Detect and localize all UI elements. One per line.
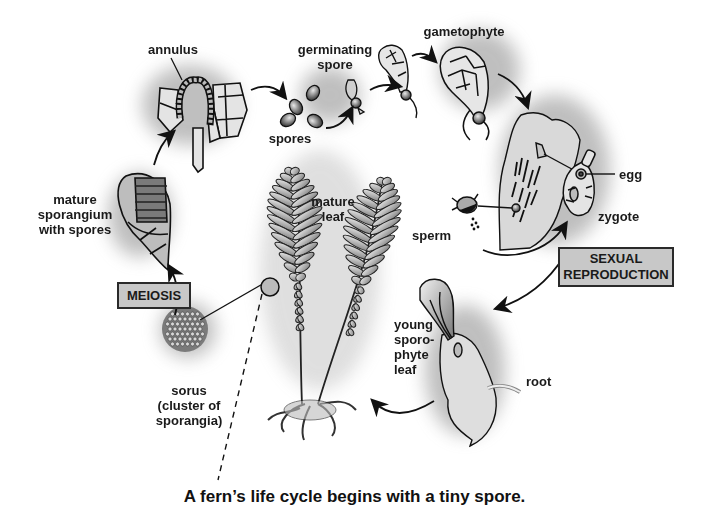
sporangium-dot	[191, 322, 195, 326]
label-young-line3: phyte	[394, 347, 434, 362]
label-germinating-spore: germinating spore	[295, 42, 375, 72]
sporangium-dot	[188, 337, 192, 341]
sporangium-dot	[186, 332, 190, 336]
sporangium-dot	[171, 312, 175, 316]
label-sorus-line1: sorus	[148, 383, 230, 398]
sporangium-dot	[176, 322, 180, 326]
sporangium-dot	[181, 342, 185, 346]
sporangium-dot	[193, 327, 197, 331]
sporangium-dot	[168, 327, 172, 331]
label-young-line1: young	[394, 317, 434, 332]
sporangium-dot	[196, 322, 200, 326]
sporangium-dot	[191, 312, 195, 316]
sporangium-dot	[181, 332, 185, 336]
label-spores: spores	[265, 131, 315, 146]
sporangium-dot	[176, 342, 180, 346]
label-root: root	[526, 374, 551, 389]
figure-caption: A fern’s life cycle begins with a tiny s…	[0, 487, 709, 507]
sorus	[162, 306, 208, 352]
sporangium-dot	[198, 327, 202, 331]
sporangium-dot	[186, 322, 190, 326]
sexual-reproduction-box: SEXUAL REPRODUCTION	[558, 247, 674, 287]
sexual-reproduction-line2: REPRODUCTION	[563, 267, 668, 283]
arrow-annulus-to-spores	[251, 87, 284, 96]
arrow-young-to-mature-gametophyte	[412, 54, 434, 60]
label-mature-sporangium: mature sporangium with spores	[30, 192, 120, 237]
sporangium-dot	[201, 332, 205, 336]
arrow-sporophyte-to-fern	[374, 401, 434, 413]
label-germinating-line1: germinating	[295, 42, 375, 57]
sporangium-dot	[186, 312, 190, 316]
sporangium-dot	[181, 322, 185, 326]
sporangium-dot	[166, 332, 170, 336]
sorus-magnifier-circle	[261, 278, 279, 296]
label-mature-leaf: mature leaf	[308, 194, 358, 224]
sporangium-dot	[196, 332, 200, 336]
sexual-reproduction-line1: SEXUAL	[590, 251, 643, 267]
sporangium-dot	[171, 332, 175, 336]
sporangium-dot	[201, 322, 205, 326]
sporangium-dot	[191, 342, 195, 346]
sporangium-dot	[168, 337, 172, 341]
label-sperm: sperm	[412, 228, 451, 243]
sporangium-dot	[181, 312, 185, 316]
label-mature-sporangium-line2: sporangium	[30, 207, 120, 222]
arrow-reproduction-to-sporophyte	[498, 255, 565, 308]
sorus-leader-line	[200, 282, 266, 320]
label-mature-sporangium-line1: mature	[30, 192, 120, 207]
sporangium-dot	[173, 337, 177, 341]
sporangium-dot	[188, 317, 192, 321]
label-zygote: zygote	[598, 209, 639, 224]
sporangium-dot	[183, 337, 187, 341]
label-sorus-line2: (cluster of	[148, 398, 230, 413]
sporangium-dot	[193, 337, 197, 341]
sporangium-dot	[186, 342, 190, 346]
sporangium-dot	[178, 317, 182, 321]
sporangium-dot	[188, 327, 192, 331]
mature-gametophyte	[440, 47, 488, 140]
label-young-line2: sporo-	[394, 332, 434, 347]
sporangium-dot	[171, 342, 175, 346]
label-mature-leaf-line2: leaf	[308, 209, 358, 224]
meiosis-box: MEIOSIS	[117, 282, 191, 309]
sporangium-dot	[183, 327, 187, 331]
sporangium-dot	[193, 317, 197, 321]
young-gametophyte	[379, 45, 417, 118]
sporangium-dot	[173, 317, 177, 321]
label-young-sporophyte-leaf: young sporo- phyte leaf	[394, 317, 434, 377]
sporangium-dot	[166, 322, 170, 326]
label-annulus: annulus	[143, 42, 203, 57]
sporangium-dot	[196, 342, 200, 346]
meiosis-label: MEIOSIS	[127, 288, 181, 304]
label-sorus-line3: sporangia)	[148, 413, 230, 428]
sporangium-dot	[178, 337, 182, 341]
sporangium-dot	[178, 327, 182, 331]
label-sorus: sorus (cluster of sporangia)	[148, 383, 230, 428]
sporangium-dot	[183, 317, 187, 321]
label-mature-leaf-line1: mature	[308, 194, 358, 209]
sporangium-dot	[198, 337, 202, 341]
sporangium-dot	[173, 327, 177, 331]
label-germinating-line2: spore	[295, 57, 375, 72]
label-mature-sporangium-line3: with spores	[30, 222, 120, 237]
arrow-germinating-to-young-gametophyte	[370, 85, 398, 90]
sporangium-dot	[196, 312, 200, 316]
label-young-line4: leaf	[394, 362, 434, 377]
sporangium-dot	[176, 332, 180, 336]
sporangium-dot	[171, 322, 175, 326]
label-gametophyte: gametophyte	[422, 24, 506, 39]
label-egg: egg	[619, 167, 642, 182]
sporangium-dot	[168, 317, 172, 321]
sporangium-dot	[191, 332, 195, 336]
